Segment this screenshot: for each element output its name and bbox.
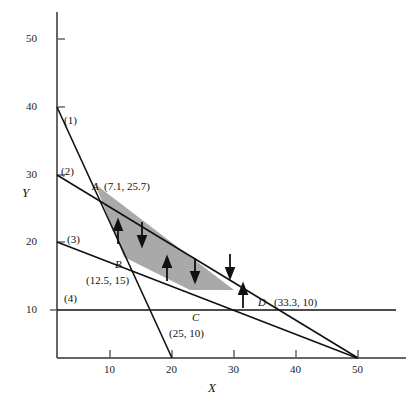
point-label-c: C — [192, 311, 199, 323]
x-tick-label-40: 40 — [290, 363, 301, 375]
point-label-d: D — [258, 296, 266, 308]
point-coords-a: (7.1, 25.7) — [104, 180, 150, 192]
x-tick-label-10: 10 — [104, 363, 115, 375]
linear-programming-chart: 50 40 30 20 10 10 20 30 40 50 Y X (1) (2… — [0, 0, 420, 402]
y-tick-label-30: 30 — [26, 168, 37, 180]
line-label-2: (2) — [61, 165, 74, 177]
direction-arrow-up-3 — [239, 284, 247, 308]
x-tick-label-30: 30 — [228, 363, 239, 375]
x-axis-title: X — [208, 380, 216, 396]
line-label-4: (4) — [64, 292, 77, 304]
y-tick-label-10: 10 — [26, 303, 37, 315]
y-axis-title: Y — [22, 185, 29, 201]
point-coords-b: (12.5, 15) — [86, 274, 129, 286]
point-label-a: A — [92, 180, 99, 192]
line-label-3: (3) — [67, 233, 80, 245]
x-tick-label-50: 50 — [352, 363, 363, 375]
line-label-1: (1) — [64, 114, 77, 126]
point-coords-d: (33.3, 10) — [274, 296, 317, 308]
y-tick-label-20: 20 — [26, 235, 37, 247]
constraint-line-2 — [57, 175, 358, 358]
point-coords-c: (25, 10) — [169, 327, 204, 339]
direction-arrow-down-3 — [226, 254, 234, 278]
plot-canvas — [0, 0, 420, 402]
y-tick-label-50: 50 — [26, 32, 37, 44]
point-label-b: B — [115, 258, 122, 270]
y-tick-label-40: 40 — [26, 100, 37, 112]
x-tick-label-20: 20 — [166, 363, 177, 375]
